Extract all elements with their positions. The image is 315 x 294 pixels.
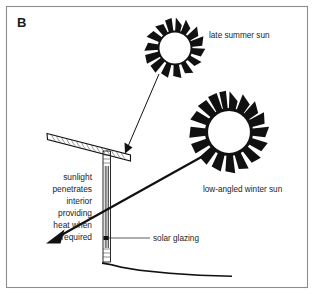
callout-line-5: heat when <box>53 220 92 230</box>
late-summer-sun-label: late summer sun <box>209 31 270 40</box>
callout-line-6: required <box>61 232 92 242</box>
solar-glazing-label: solar glazing <box>153 234 199 243</box>
glazing-leader-node <box>104 236 109 240</box>
solar-gain-diagram: B late summer sun <box>0 0 315 294</box>
callout-line-2: penetrates <box>52 184 92 194</box>
winter-sun-core <box>207 110 252 155</box>
callout-line-1: sunlight <box>63 172 93 182</box>
panel-letter: B <box>17 15 26 30</box>
callout-line-3: interior <box>66 196 92 206</box>
low-angled-winter-sun-label: low-angled winter sun <box>203 185 283 194</box>
figure-panel-b: B late summer sun <box>0 0 315 294</box>
summer-sun-core <box>159 32 192 65</box>
callout-line-4: providing <box>58 208 92 218</box>
